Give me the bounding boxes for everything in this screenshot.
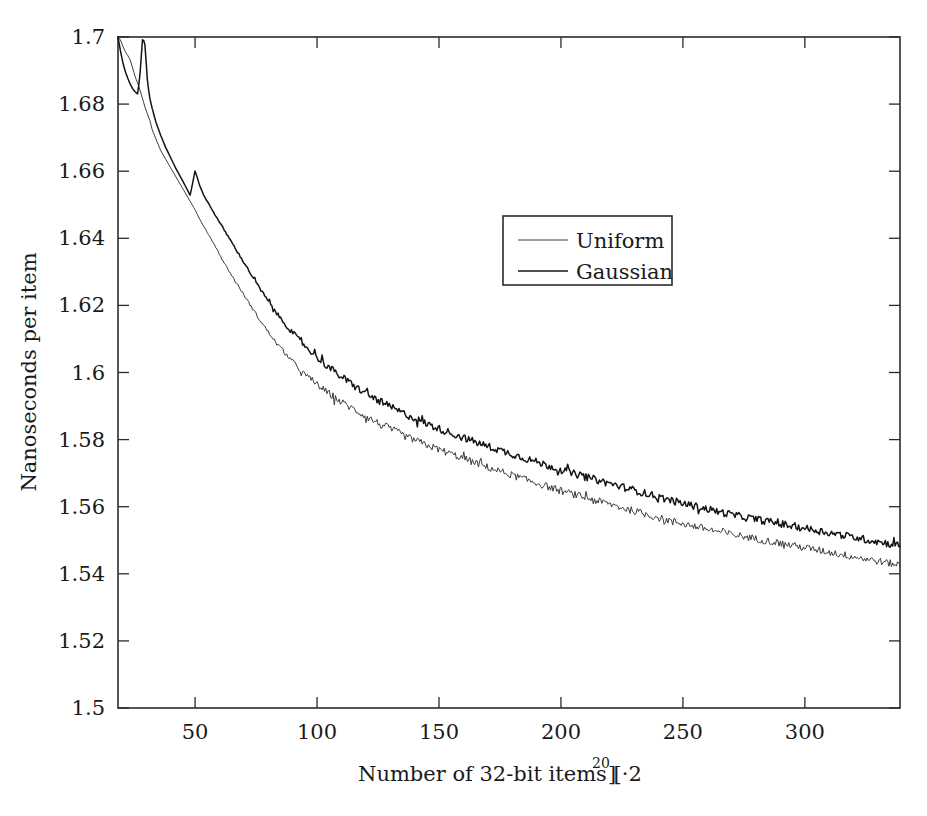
series-line-gaussian xyxy=(118,37,900,547)
y-tick-label: 1.54 xyxy=(58,562,105,586)
legend: Uniform Gaussian xyxy=(503,216,673,285)
x-tick-label: 300 xyxy=(785,720,825,744)
chart-figure: 50100150200250300 1.51.521.541.561.581.6… xyxy=(0,0,927,816)
x-tick-label: 50 xyxy=(182,720,209,744)
y-tick-label: 1.7 xyxy=(72,25,105,49)
x-tick-label: 150 xyxy=(419,720,459,744)
x-tick-label: 200 xyxy=(541,720,581,744)
x-tick-label: 250 xyxy=(663,720,703,744)
y-tick-label: 1.58 xyxy=(58,428,105,452)
x-axis-title: Number of 32-bit items [·2 20 ] xyxy=(358,755,642,786)
x-tick-label: 100 xyxy=(297,720,337,744)
y-tick-label: 1.56 xyxy=(58,495,105,519)
x-axis-title-tail: ] xyxy=(608,762,616,786)
plot-frame xyxy=(118,37,900,708)
data-series-group xyxy=(118,37,900,567)
x-axis-ticks xyxy=(195,37,805,708)
y-tick-label: 1.5 xyxy=(72,696,105,720)
y-axis-title: Nanoseconds per item xyxy=(17,252,41,491)
y-tick-label: 1.68 xyxy=(58,92,105,116)
y-axis-tick-labels: 1.51.521.541.561.581.61.621.641.661.681.… xyxy=(58,25,105,720)
y-tick-label: 1.52 xyxy=(58,629,105,653)
y-tick-label: 1.66 xyxy=(58,159,105,183)
y-axis-ticks xyxy=(118,37,900,708)
legend-label-uniform: Uniform xyxy=(576,229,664,253)
x-axis-tick-labels: 50100150200250300 xyxy=(182,720,825,744)
series-line-uniform xyxy=(118,37,900,567)
y-tick-label: 1.62 xyxy=(58,293,105,317)
y-tick-label: 1.64 xyxy=(58,226,105,250)
line-chart: 50100150200250300 1.51.521.541.561.581.6… xyxy=(0,0,927,816)
y-tick-label: 1.6 xyxy=(72,361,105,385)
legend-label-gaussian: Gaussian xyxy=(576,260,673,284)
